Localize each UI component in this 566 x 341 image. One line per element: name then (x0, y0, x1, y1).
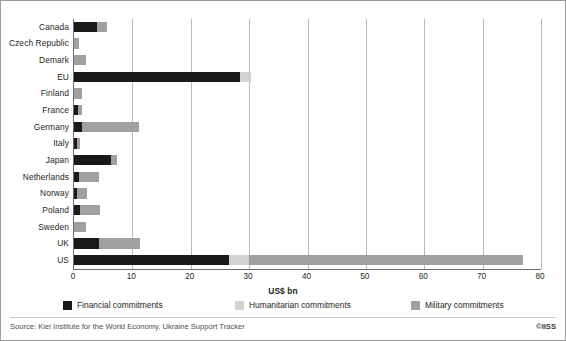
category-label-finland: Finland (41, 89, 69, 98)
bar-segment-military[interactable] (74, 38, 79, 48)
chart-row: Czech Republic (74, 36, 541, 52)
bar-segment-humanitarian[interactable] (229, 255, 249, 265)
chart-row: Sweden (74, 219, 541, 235)
stacked-bar[interactable] (74, 255, 523, 265)
bar-segment-military[interactable] (74, 88, 82, 98)
legend-label: Financial commitments (77, 300, 163, 310)
x-tick-50: 50 (360, 272, 369, 282)
bar-segment-financial[interactable] (74, 122, 82, 132)
category-label-us: US (57, 256, 69, 265)
category-label-uk: UK (57, 239, 69, 248)
bar-segment-military[interactable] (77, 138, 80, 148)
bar-segment-financial[interactable] (74, 22, 97, 32)
bar-segment-financial[interactable] (74, 72, 240, 82)
legend-swatch-humanitarian (235, 301, 244, 310)
stacked-bar[interactable] (74, 238, 140, 248)
category-label-demark: Demark (39, 56, 69, 65)
x-tick-10: 10 (127, 272, 136, 282)
x-axis-title: US$ bn (1, 286, 565, 296)
chart-row: Japan (74, 152, 541, 168)
bar-segment-military[interactable] (82, 122, 140, 132)
stacked-bar[interactable] (74, 88, 82, 98)
category-label-japan: Japan (46, 156, 69, 165)
bar-segment-financial[interactable] (74, 155, 111, 165)
bar-segment-military[interactable] (77, 188, 88, 198)
gridline-80 (541, 19, 542, 269)
bar-segment-military[interactable] (249, 255, 523, 265)
bar-segment-financial[interactable] (74, 255, 229, 265)
bar-segment-military[interactable] (97, 22, 107, 32)
chart-row: Finland (74, 86, 541, 102)
bar-segment-military[interactable] (111, 155, 116, 165)
x-tick-0: 0 (71, 272, 76, 282)
category-label-france: France (42, 106, 69, 115)
bar-segment-military[interactable] (74, 55, 86, 65)
x-tick-70: 70 (477, 272, 486, 282)
stacked-bar[interactable] (74, 38, 79, 48)
bar-segment-humanitarian[interactable] (240, 72, 251, 82)
category-label-netherlands: Netherlands (23, 172, 69, 181)
stacked-bar[interactable] (74, 205, 100, 215)
category-label-poland: Poland (42, 206, 69, 215)
stacked-bar[interactable] (74, 222, 86, 232)
legend-label: Humanitarian commitments (249, 300, 351, 310)
x-tick-40: 40 (302, 272, 311, 282)
plot-area: CanadaCzech RepublicDemarkEUFinlandFranc… (73, 19, 541, 269)
x-tick-30: 30 (244, 272, 253, 282)
chart-row: Canada (74, 19, 541, 35)
x-axis-line (73, 269, 541, 270)
chart-row: Demark (74, 52, 541, 68)
bar-segment-military[interactable] (99, 238, 140, 248)
stacked-bar[interactable] (74, 138, 80, 148)
category-label-germany: Germany (34, 122, 69, 131)
chart-figure: CanadaCzech RepublicDemarkEUFinlandFranc… (0, 0, 566, 341)
x-axis-tick-labels: 01020304050607080 (73, 272, 541, 284)
stacked-bar[interactable] (74, 122, 139, 132)
category-label-sweden: Sweden (38, 222, 69, 231)
stacked-bar[interactable] (74, 22, 107, 32)
chart-row: Italy (74, 136, 541, 152)
bar-segment-military[interactable] (80, 205, 100, 215)
bar-segment-financial[interactable] (74, 238, 99, 248)
stacked-bar[interactable] (74, 172, 99, 182)
source-note: Source: Kiel Institute for the World Eco… (10, 322, 245, 332)
x-tick-20: 20 (185, 272, 194, 282)
bar-segment-military[interactable] (74, 222, 86, 232)
chart-row: US (74, 252, 541, 268)
chart-row: Norway (74, 186, 541, 202)
category-label-norway: Norway (40, 189, 69, 198)
chart-legend: Financial commitmentsHumanitarian commit… (63, 298, 543, 312)
legend-item-humanitarian[interactable]: Humanitarian commitments (235, 298, 351, 312)
chart-row: UK (74, 236, 541, 252)
stacked-bar[interactable] (74, 188, 87, 198)
category-label-czech-republic: Czech Republic (9, 39, 69, 48)
legend-item-military[interactable]: Military commitments (411, 298, 504, 312)
legend-swatch-military (411, 301, 420, 310)
chart-row: Netherlands (74, 169, 541, 185)
x-tick-60: 60 (419, 272, 428, 282)
category-label-canada: Canada (39, 22, 69, 31)
category-label-eu: EU (57, 72, 69, 81)
legend-label: Military commitments (425, 300, 504, 310)
stacked-bar[interactable] (74, 155, 117, 165)
stacked-bar[interactable] (74, 72, 251, 82)
bar-rows: CanadaCzech RepublicDemarkEUFinlandFranc… (74, 19, 541, 269)
chart-row: Poland (74, 202, 541, 218)
bar-segment-military[interactable] (78, 105, 82, 115)
legend-swatch-financial (63, 301, 72, 310)
category-label-italy: Italy (53, 139, 69, 148)
chart-row: France (74, 102, 541, 118)
footer-divider (10, 317, 556, 318)
copyright-credit: ©IISS (536, 322, 556, 332)
stacked-bar[interactable] (74, 105, 82, 115)
stacked-bar[interactable] (74, 55, 86, 65)
legend-item-financial[interactable]: Financial commitments (63, 298, 163, 312)
bar-segment-military[interactable] (79, 172, 99, 182)
chart-row: EU (74, 69, 541, 85)
x-tick-80: 80 (535, 272, 544, 282)
chart-row: Germany (74, 119, 541, 135)
